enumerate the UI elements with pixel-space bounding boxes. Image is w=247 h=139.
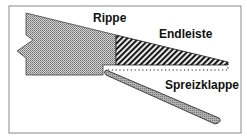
label-trailing-edge: Endleiste (159, 27, 213, 41)
label-rib: Rippe (93, 11, 127, 25)
split-flap-diagram: Rippe Endleiste Spreizklappe (0, 0, 247, 139)
label-split-flap: Spreizklappe (165, 78, 239, 92)
